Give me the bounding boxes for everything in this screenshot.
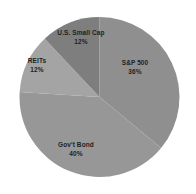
pie-svg bbox=[0, 0, 196, 194]
pie-chart: S&P 50036%Gov't Bond40%REITs12%U.S. Smal… bbox=[0, 0, 196, 194]
